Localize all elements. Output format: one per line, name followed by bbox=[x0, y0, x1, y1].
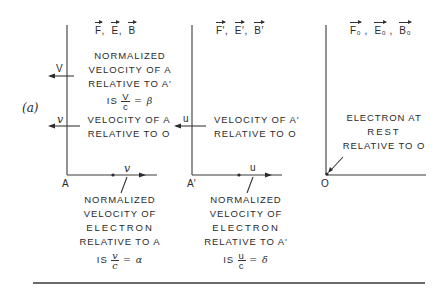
origin-label-a: A bbox=[62, 178, 69, 189]
fraction-v-over-c: V c bbox=[121, 92, 130, 111]
frame-a-velocity-description: NORMALIZED VELOCITY OF A RELATIVE TO A′ … bbox=[80, 49, 180, 111]
text-line: RELATIVE TO O bbox=[214, 127, 304, 141]
vector-f-zero: F₀ bbox=[350, 25, 361, 36]
eq-prefix: IS bbox=[107, 95, 118, 106]
vector-e: E bbox=[111, 25, 118, 36]
frame-aprime-velocity-rel-o-text: VELOCITY OF A′ RELATIVE TO O bbox=[214, 113, 304, 141]
frame-a-electron-velocity-symbol: v bbox=[124, 162, 130, 175]
vector-e-prime: E′ bbox=[235, 25, 245, 36]
text-line: NORMALIZED bbox=[194, 193, 298, 207]
frame-aprime-velocity-rel-o-symbol: u bbox=[183, 113, 189, 124]
text-line: VELOCITY OF bbox=[70, 207, 170, 221]
eq-prefix: IS bbox=[223, 254, 234, 265]
origin-label-aprime: A′ bbox=[187, 178, 196, 189]
fraction-u-over-c: u c bbox=[238, 251, 246, 270]
frame-a-velocity-rel-o-symbol: v bbox=[57, 113, 63, 126]
vector-f-prime: F′ bbox=[216, 25, 225, 36]
text-line: VELOCITY OF A bbox=[80, 63, 180, 77]
frame-a-fields-header: F, E, B bbox=[95, 25, 136, 36]
vector-e-zero: E₀ bbox=[374, 25, 386, 36]
text-line: ELECTRON bbox=[70, 221, 170, 235]
frame-o-electron-text: ELECTRON AT REST RELATIVE TO O bbox=[338, 111, 430, 153]
text-line: VELOCITY OF A bbox=[84, 113, 174, 127]
text-line: RELATIVE TO A bbox=[70, 235, 170, 249]
text-line: ELECTRON bbox=[194, 221, 298, 235]
beta-equation: IS V c = β bbox=[80, 92, 180, 111]
text-line: NORMALIZED bbox=[80, 49, 180, 63]
delta-equation: IS u c = δ bbox=[194, 251, 298, 270]
frame-aprime-electron-description: NORMALIZED VELOCITY OF ELECTRON RELATIVE… bbox=[194, 193, 298, 270]
origin-label-o: O bbox=[321, 178, 329, 189]
alpha-equation: IS v c = α bbox=[70, 251, 170, 270]
vector-b-zero: B₀ bbox=[399, 25, 411, 36]
frame-aprime-fields-header: F′, E′, B′ bbox=[216, 25, 264, 36]
vector-b-prime: B′ bbox=[254, 25, 264, 36]
denominator: c bbox=[111, 261, 119, 270]
text-line: VELOCITY OF A′ bbox=[214, 113, 304, 127]
text-line: ELECTRON AT bbox=[338, 111, 430, 125]
frame-aprime-electron-velocity-symbol: u bbox=[250, 162, 256, 173]
eq-result: = β bbox=[134, 95, 153, 106]
text-line: NORMALIZED bbox=[70, 193, 170, 207]
vector-b: B bbox=[128, 25, 135, 36]
text-line: RELATIVE TO O bbox=[338, 139, 430, 153]
text-line: RELATIVE TO O bbox=[84, 127, 174, 141]
denominator: c bbox=[121, 102, 130, 111]
frame-a-velocity-rel-o-text: VELOCITY OF A RELATIVE TO O bbox=[84, 113, 174, 141]
frame-a-velocity-symbol: V bbox=[56, 63, 63, 74]
vector-f: F bbox=[95, 25, 102, 36]
eq-result: = α bbox=[123, 254, 143, 265]
denominator: c bbox=[238, 261, 246, 270]
frame-o-fields-header: F₀ , E₀ , B₀ bbox=[350, 25, 411, 36]
text-line: REST bbox=[338, 125, 430, 139]
text-line: RELATIVE TO A′ bbox=[194, 235, 298, 249]
eq-result: = δ bbox=[249, 254, 268, 265]
text-line: VELOCITY OF bbox=[194, 207, 298, 221]
figure-label: (a) bbox=[22, 101, 39, 115]
fraction-v-over-c: v c bbox=[111, 251, 119, 270]
text-line: RELATIVE TO A′ bbox=[80, 77, 180, 91]
frame-a-electron-description: NORMALIZED VELOCITY OF ELECTRON RELATIVE… bbox=[70, 193, 170, 270]
eq-prefix: IS bbox=[97, 254, 108, 265]
